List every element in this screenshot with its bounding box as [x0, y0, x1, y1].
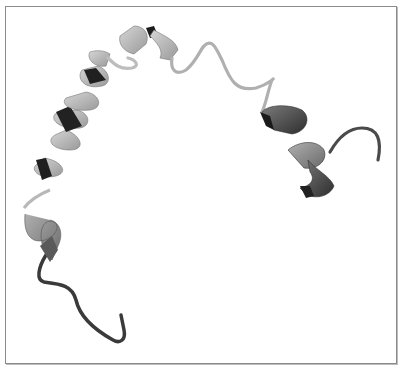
- n-terminal-coil: [39, 255, 124, 342]
- helix-3: [120, 26, 178, 60]
- middle-loop: [172, 43, 274, 112]
- helix-4: [260, 106, 334, 198]
- helix-2: [34, 51, 110, 180]
- linker-coil: [108, 58, 136, 68]
- helix-1: [24, 190, 61, 262]
- protein-ribbon-figure: [0, 0, 400, 373]
- c-terminal-coil: [330, 128, 379, 160]
